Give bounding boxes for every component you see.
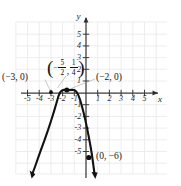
y-tick-label--5: -5 <box>75 148 82 156</box>
coordinate-plane <box>0 0 181 186</box>
y-axis-label: y <box>77 12 81 21</box>
y-tick-label-1: 1 <box>77 77 81 85</box>
leader-vertex <box>58 76 67 88</box>
vertex-x-sign: − <box>53 64 58 72</box>
point-vertex <box>64 88 69 93</box>
vertex-y-denominator: 4 <box>71 69 77 77</box>
vertex-close-paren: ) <box>78 60 84 75</box>
curve-arrow-right <box>92 172 98 179</box>
y-tick-label-4: 4 <box>77 42 81 50</box>
x-tick-label--3: -3 <box>48 95 55 103</box>
label-right-intercept: (−2, 0) <box>96 73 122 83</box>
x-tick-label-4: 4 <box>131 95 135 103</box>
y-tick-label--1: -1 <box>75 101 82 109</box>
y-tick-label--2: -2 <box>75 113 82 121</box>
x-tick-label-5: 5 <box>143 95 147 103</box>
y-tick-label--3: -3 <box>75 124 82 132</box>
x-tick-label-2: 2 <box>108 95 112 103</box>
x-tick-label--4: -4 <box>36 95 43 103</box>
vertex-x-numerator: 5 <box>59 59 65 67</box>
vertex-x-denominator: 2 <box>59 69 65 77</box>
point-y-intercept <box>86 155 91 160</box>
x-tick-label--5: -5 <box>24 95 31 103</box>
graph-figure: -5 -4 -3 -2 -1 1 2 3 4 5 5 4 3 2 1 -1 -2… <box>0 0 181 186</box>
x-tick-label-3: 3 <box>119 95 123 103</box>
vertex-x-fraction: 5 2 <box>58 59 66 77</box>
y-tick-label--4: -4 <box>75 136 82 144</box>
label-left-intercept: (−3, 0) <box>2 73 28 83</box>
x-axis-label: x <box>158 95 162 104</box>
x-tick-label-1: 1 <box>96 95 100 103</box>
x-tick-label--2: -2 <box>59 95 66 103</box>
y-tick-label-5: 5 <box>77 31 81 39</box>
y-axis-arrow <box>84 17 89 23</box>
label-vertex: ( − 5 2 , 1 4 ) <box>47 59 85 77</box>
vertex-open-paren: ( <box>47 60 53 75</box>
vertex-y-fraction: 1 4 <box>70 59 78 77</box>
vertex-y-numerator: 1 <box>71 59 77 67</box>
label-y-intercept: (0, −6) <box>96 152 122 162</box>
